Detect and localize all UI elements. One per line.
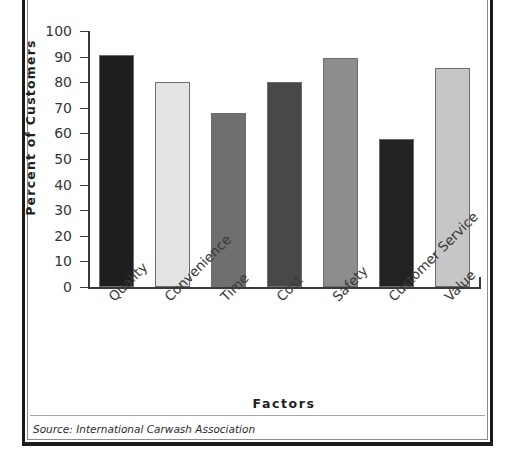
- y-axis-tick-label: 70: [32, 101, 72, 115]
- x-axis-title: Factors: [88, 396, 480, 411]
- y-axis-tick-label: 80: [32, 75, 72, 89]
- y-axis-tick-label: 0: [32, 280, 72, 294]
- bar-safety: [323, 58, 358, 287]
- plot-area: [88, 31, 480, 287]
- y-axis-tick-label: 90: [32, 50, 72, 64]
- figure-container: Percent of Customers 1009080706050403020…: [0, 0, 518, 456]
- source-note: Source: International Carwash Associatio…: [33, 423, 255, 435]
- figure-bottom-rule: [22, 443, 493, 446]
- y-axis-tick-label: 100: [32, 24, 72, 38]
- y-axis-tick-label: 20: [32, 229, 72, 243]
- y-axis-tick-label: 50: [32, 152, 72, 166]
- bar-customer-service: [379, 139, 414, 287]
- bar-cost: [267, 82, 302, 287]
- y-axis-tick-label: 30: [32, 203, 72, 217]
- y-axis-tick-label: 10: [32, 254, 72, 268]
- y-axis-tick-label: 60: [32, 126, 72, 140]
- y-axis-tick-label: 40: [32, 178, 72, 192]
- source-divider: [30, 415, 485, 416]
- y-axis-tick: [80, 287, 89, 288]
- bar-quality: [99, 55, 134, 287]
- bar-convenience: [155, 82, 190, 287]
